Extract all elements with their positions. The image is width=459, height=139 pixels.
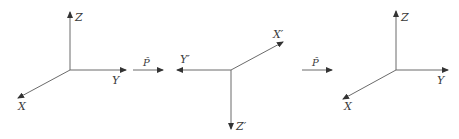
y-label: Y [437, 74, 446, 87]
y-label: Y [112, 74, 121, 87]
parity-diagram: Z Y X P̂ Y′ X′ Z′ P̂ Z Y X [0, 0, 459, 139]
y-prime-label: Y′ [180, 53, 190, 66]
frame-rotated: Z Y X [343, 11, 448, 113]
x-label: X [343, 100, 353, 113]
frame-original: Z Y X [17, 11, 126, 113]
z-prime-label: Z′ [235, 120, 247, 133]
z-label: Z [74, 11, 83, 24]
x-label: X [17, 100, 27, 113]
operator-label: P̂ [142, 57, 150, 68]
x-prime-label: X′ [272, 28, 284, 41]
parity-operator-1: P̂ [133, 57, 163, 70]
z-label: Z [400, 11, 409, 24]
x-axis [343, 70, 396, 99]
x-axis [18, 70, 70, 98]
operator-label: P̂ [311, 57, 319, 68]
frame-inverted: Y′ X′ Z′ [177, 28, 284, 133]
x-prime-axis [231, 42, 283, 70]
parity-operator-2: P̂ [302, 57, 332, 70]
